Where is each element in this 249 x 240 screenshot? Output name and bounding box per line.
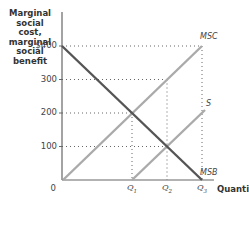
y-tick-0: 0 xyxy=(16,183,56,193)
msc-curve-label: MSC xyxy=(200,32,218,41)
x-tick-q2: Q2 xyxy=(162,183,172,194)
s-line xyxy=(132,110,205,180)
x-axis-label: Quantity xyxy=(217,184,249,194)
x-tick-q3: Q3 xyxy=(197,183,207,194)
x-tick-q1: Q1 xyxy=(127,183,137,194)
s-curve-label: S xyxy=(206,99,211,108)
y-tick-200: 200 xyxy=(17,107,57,117)
y-tick-300: 300 xyxy=(17,74,57,84)
msb-curve-label: MSB xyxy=(200,168,217,177)
y-tick-100: 100 xyxy=(17,141,57,151)
y-tick-400: $400 xyxy=(17,40,57,50)
